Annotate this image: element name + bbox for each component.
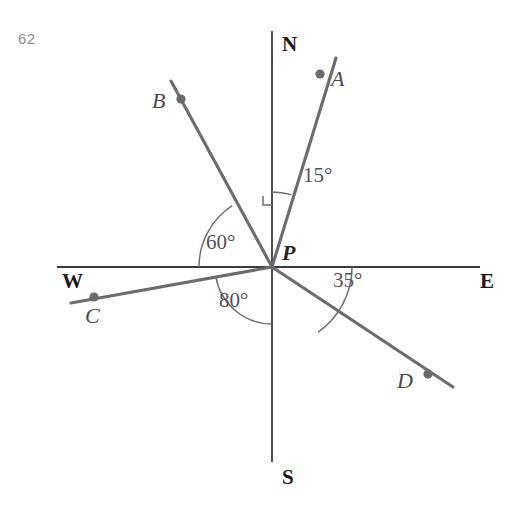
point-marker-b	[176, 94, 185, 103]
angle-label-60: 60°	[206, 232, 235, 253]
point-marker-d	[423, 369, 432, 378]
angle-arc-15	[272, 192, 291, 195]
point-label-b: B	[152, 90, 165, 112]
point-label-a: A	[331, 68, 344, 90]
diagram-canvas: 62 N S E W A B C D P 15° 60° 80° 35°	[0, 0, 516, 514]
angle-label-15: 15°	[303, 165, 332, 186]
point-label-c: C	[85, 305, 100, 327]
geometry-svg	[0, 0, 516, 514]
compass-label-west: W	[62, 271, 83, 292]
axis-group	[57, 31, 480, 462]
point-label-p: P	[282, 242, 295, 264]
point-marker-group	[89, 69, 432, 378]
ray-pd	[272, 267, 453, 387]
compass-label-south: S	[282, 467, 294, 488]
compass-label-east: E	[480, 271, 494, 292]
angle-tick-15	[263, 196, 272, 205]
compass-label-north: N	[282, 34, 297, 55]
page-number: 62	[18, 31, 36, 46]
angle-label-80: 80°	[219, 290, 248, 311]
point-marker-c	[89, 292, 98, 301]
point-marker-a	[315, 69, 324, 78]
point-label-d: D	[397, 370, 413, 392]
ray-group	[71, 58, 453, 387]
angle-label-35: 35°	[333, 270, 362, 291]
